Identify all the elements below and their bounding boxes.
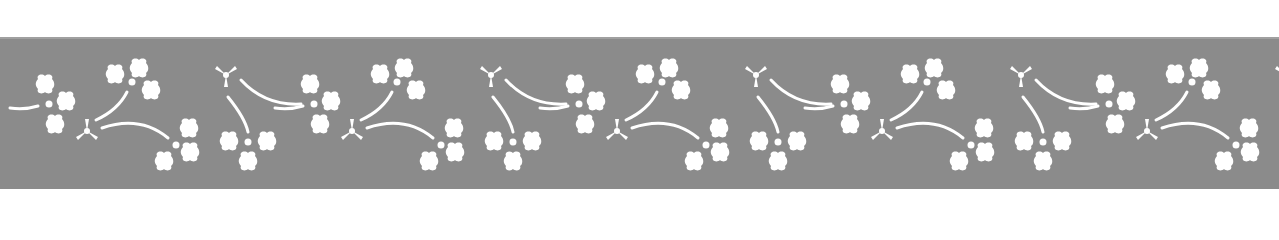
floral-pattern [0, 37, 1279, 189]
decorative-border-band [0, 37, 1279, 189]
